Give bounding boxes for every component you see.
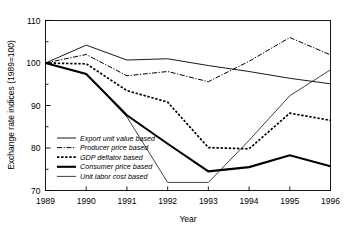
legend-label-producer-price-based: Producer price based	[80, 143, 149, 152]
y-tick-label-100: 100	[26, 58, 40, 68]
x-axis-tick-labels: 19891990199119921993199419951996	[36, 196, 340, 206]
x-tick-label-1993: 1993	[199, 196, 218, 206]
y-tick-label-110: 110	[27, 16, 41, 26]
x-tick-label-1996: 1996	[321, 196, 340, 206]
x-tick-label-1989: 1989	[36, 196, 55, 206]
chart-figure: 708090100110 198919901991199219931994199…	[0, 0, 353, 231]
y-tick-label-80: 80	[31, 143, 41, 153]
x-tick-label-1995: 1995	[280, 196, 299, 206]
x-tick-label-1990: 1990	[77, 196, 96, 206]
x-axis-ticks	[86, 187, 330, 191]
chart-legend: Export unit value basedProducer price ba…	[57, 134, 156, 181]
y-axis-title: Exchange rate indices (1989=100)	[6, 40, 16, 170]
legend-label-consumer-price-based: Consumer price based	[80, 162, 153, 171]
y-tick-label-90: 90	[31, 101, 41, 111]
y-axis-tick-labels: 708090100110	[26, 16, 40, 196]
y-tick-label-70: 70	[31, 186, 41, 196]
x-axis-title: Year	[179, 214, 196, 224]
x-tick-label-1994: 1994	[240, 196, 259, 206]
legend-label-unit-labor-cost-based: Unit labor cost based	[80, 172, 149, 181]
x-tick-label-1991: 1991	[117, 196, 136, 206]
x-tick-label-1992: 1992	[158, 196, 177, 206]
line-chart: 708090100110 198919901991199219931994199…	[0, 0, 353, 231]
legend-label-gdp-deflator-based: GDP deflator based	[80, 153, 144, 162]
legend-label-export-unit-value-based: Export unit value based	[80, 134, 156, 143]
y-axis-major-ticks	[46, 21, 51, 191]
